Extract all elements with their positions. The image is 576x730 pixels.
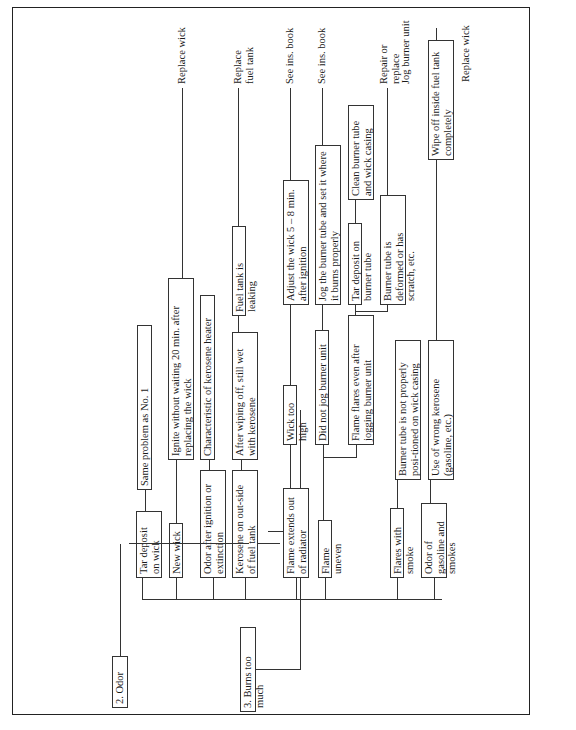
symptom-odor-of-gasoline: Odor of gasoline and smokes: [421, 503, 447, 578]
section-odor-title: 2. Odor: [112, 656, 128, 708]
remedy-replace-fuel-tank: Replace fuel tank: [232, 34, 255, 84]
cause-did-not-jog-burner: Did not jog burner unit: [315, 330, 329, 445]
symptom-kerosene-outside-tank: Kerosene on out-side of fuel tank: [232, 470, 258, 578]
cause-after-wiping-still-wet: After wiping off, still wet with kerosen…: [232, 332, 258, 460]
symptom-flame-extends: Flame extends out of radiator: [283, 488, 309, 578]
cause-burner-tube-not-positioned: Burner tube is not properly posi-tioned …: [395, 340, 421, 480]
cause-adjust-wick: Adjust the wick 5 – 8 min. after ignitio…: [283, 180, 309, 305]
cause-wrong-kerosene: Use of wrong kerosene (gasoline, etc.): [428, 340, 454, 480]
symptom-odor-after-ignition: Odor after ignition or extinction: [200, 470, 226, 578]
section-burns-too-much-title: 3. Burns too much: [240, 627, 256, 712]
symptom-flares-with-smoke: Flares with smoke: [390, 508, 404, 578]
remedy-see-ins-book-1: See ins. book: [284, 28, 296, 84]
cause-fuel-tank-leaking: Fuel tank is leaking: [232, 226, 246, 316]
symptom-new-wick: New wick: [169, 523, 183, 578]
cause-characteristic-of-kerosene-heater: Characteristic of kerosene heater: [200, 295, 215, 460]
remedy-see-ins-book-2: See ins. book: [316, 28, 328, 84]
remedy-replace-wick-2: Replace wick: [460, 25, 472, 82]
remedy-replace-wick-1: Replace wick: [176, 27, 188, 84]
symptom-flame-uneven: Flame uneven: [318, 520, 332, 578]
cause-jog-burner-tube: Jog the burner tube and set it where it …: [315, 145, 341, 305]
troubleshooting-flowchart: 2. Odor Tar deposit on wick New wick Odo…: [0, 0, 576, 730]
remedy-jog-burner-unit: Jog burner unit: [400, 20, 412, 84]
cause-ignite-without-waiting: Ignite without waiting 20 min. after rep…: [168, 278, 194, 460]
cause-tar-deposit-burner-tube: Tar deposit on burner tube: [348, 223, 362, 305]
cause-wipe-off-inside-tank: Wipe off inside fuel tank completely: [428, 40, 454, 160]
symptom-tar-deposit-on-wick: Tar deposit on wick: [136, 511, 162, 578]
remedy-repair-or-replace: Repair or replace: [378, 39, 401, 84]
cause-wick-too-high: Wick too high: [283, 385, 297, 445]
cause-same-problem-no1: Same problem as No. 1: [137, 325, 152, 490]
cause-flame-flares-after-jogging: Flame flares even after jogging burner u…: [348, 315, 374, 445]
cause-burner-tube-deformed: Burner tube is deformed or has scratch, …: [380, 195, 406, 305]
cause-clean-burner-tube: Clean burner tube and wick casing: [348, 105, 374, 200]
